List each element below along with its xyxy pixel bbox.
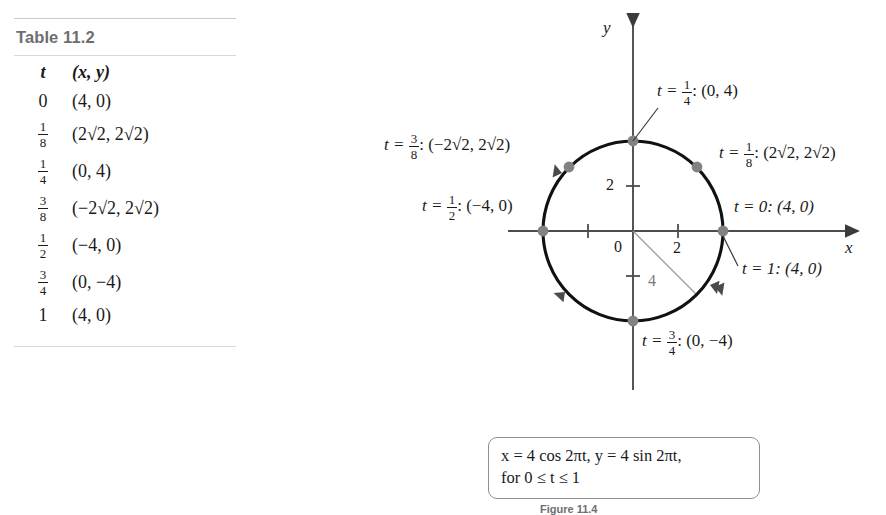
cell-t-5: 3 4 <box>14 264 72 301</box>
table-row: 1 (4, 0) <box>14 301 236 330</box>
table-header-rule <box>14 55 236 56</box>
header-cell-xy: (x, y) <box>72 58 236 87</box>
point-t-three-eighths <box>564 162 575 173</box>
fraction: 1 8 <box>38 120 49 149</box>
table-row: 1 2 (−4, 0) <box>14 227 236 264</box>
leader-t-one <box>723 236 738 266</box>
point-t-one-half <box>538 226 549 237</box>
label-t-three-eighths: t = 38: (−2√2, 2√2) <box>384 132 510 161</box>
radius-segment <box>633 231 697 295</box>
table-row: 3 4 (0, −4) <box>14 264 236 301</box>
x-tick-label-2: 2 <box>673 239 681 257</box>
fraction-denominator: 2 <box>38 245 49 260</box>
fraction-denominator: 4 <box>38 282 49 297</box>
fraction-denominator: 4 <box>38 171 49 186</box>
cell-xy-3: (−2√2, 2√2) <box>72 190 236 227</box>
table-bottom-rule <box>14 346 236 347</box>
fraction: 14 <box>682 78 693 107</box>
label-t-one: t = 1: (4, 0) <box>742 259 822 279</box>
cell-t-1: 1 8 <box>14 116 72 153</box>
cell-xy-1: (2√2, 2√2) <box>72 116 236 153</box>
formula-callout-box: x = 4 cos 2πt, y = 4 sin 2πt, for 0 ≤ t … <box>488 437 760 499</box>
fraction: 12 <box>447 193 458 222</box>
y-tick-label-2: 2 <box>606 176 614 194</box>
point-t-three-quarters <box>628 316 639 327</box>
label-t-one-eighth: t = 18: (2√2, 2√2) <box>719 140 836 169</box>
cell-xy-4: (−4, 0) <box>72 227 236 264</box>
table-row: 1 4 (0, 4) <box>14 153 236 190</box>
label-t-zero: t = 0: (4, 0) <box>734 197 814 217</box>
table-row: 0 (4, 0) <box>14 87 236 116</box>
cell-t-0: 0 <box>14 87 72 116</box>
cell-t-4: 1 2 <box>14 227 72 264</box>
table-title: Table 11.2 <box>14 19 236 55</box>
fraction-numerator: 1 <box>38 231 49 245</box>
label-t-one-quarter: t = 14: (0, 4) <box>657 78 738 107</box>
y-axis-label: y <box>603 18 611 38</box>
fraction-denominator: 8 <box>38 208 49 223</box>
cell-xy-0: (4, 0) <box>72 87 236 116</box>
cell-xy-2: (0, 4) <box>72 153 236 190</box>
circle-diagram-svg <box>390 0 886 512</box>
fraction-denominator: 8 <box>38 134 49 149</box>
figure-caption: Figure 11.4 <box>540 503 597 515</box>
fraction-numerator: 3 <box>38 268 49 282</box>
cell-t-2: 1 4 <box>14 153 72 190</box>
parametric-circle-figure: y x 0 2 2 4 t = 14: (0, 4) t = 18: (2√2,… <box>390 0 886 512</box>
label-t-three-quarters: t = 34: (0, −4) <box>642 328 733 357</box>
cell-t-3: 3 8 <box>14 190 72 227</box>
table-header-row: t (x, y) <box>14 58 236 87</box>
label-t-one-half: t = 12: (−4, 0) <box>422 193 513 222</box>
fraction: 3 8 <box>38 194 49 223</box>
origin-label: 0 <box>614 238 622 256</box>
formula-line-1: x = 4 cos 2πt, y = 4 sin 2πt, <box>501 445 749 467</box>
table-panel: Table 11.2 t (x, y) 0 (4, 0) 1 8 (2√2, 2… <box>14 18 236 347</box>
fraction-numerator: 3 <box>38 194 49 208</box>
leader-t-one-quarter <box>633 108 658 141</box>
header-cell-t: t <box>14 58 72 87</box>
table-row: 3 8 (−2√2, 2√2) <box>14 190 236 227</box>
fraction-numerator: 1 <box>38 120 49 134</box>
fraction: 38 <box>409 132 420 161</box>
table-row: 1 8 (2√2, 2√2) <box>14 116 236 153</box>
cell-xy-6: (4, 0) <box>72 301 236 330</box>
point-t-one-eighth <box>692 162 703 173</box>
cell-t-6: 1 <box>14 301 72 330</box>
radius-length-label: 4 <box>648 272 656 290</box>
point-t0-t1 <box>718 226 729 237</box>
parametric-values-table: t (x, y) 0 (4, 0) 1 8 (2√2, 2√2) <box>14 58 236 330</box>
fraction: 18 <box>744 140 755 169</box>
fraction: 34 <box>667 328 678 357</box>
fraction: 1 4 <box>38 157 49 186</box>
formula-line-2: for 0 ≤ t ≤ 1 <box>501 467 749 489</box>
fraction-numerator: 1 <box>38 157 49 171</box>
cell-xy-5: (0, −4) <box>72 264 236 301</box>
fraction: 1 2 <box>38 231 49 260</box>
fraction: 3 4 <box>38 268 49 297</box>
x-axis-label: x <box>845 238 853 258</box>
